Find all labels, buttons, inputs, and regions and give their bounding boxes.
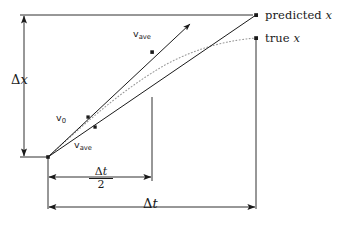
predicted-x-point-marker [254, 13, 258, 17]
v-average-upper-label-subscript: ave [139, 33, 151, 41]
midpoint-point-marker [150, 50, 154, 54]
predicted-x-label-text: predicted [265, 8, 326, 22]
v-ave-upper-vector-line [48, 24, 190, 157]
delta-t-half-numerator-variable: t [103, 165, 107, 178]
v0-point-marker [86, 115, 89, 118]
delta-t-half-label: Δt 2 [89, 166, 113, 191]
diagram-canvas: predicted x true x Δx Δt Δt 2 v0 vave va… [0, 0, 345, 228]
predicted-x-label: predicted x [265, 8, 332, 22]
delta-t-half-numerator-symbol: Δ [95, 165, 103, 178]
v-average-upper-label: vave [133, 28, 151, 39]
delta-t-half-denominator: 2 [89, 179, 113, 190]
predicted-x-label-variable: x [326, 8, 333, 22]
delta-x-label-variable: x [20, 72, 27, 87]
delta-x-label: Δx [11, 72, 28, 87]
v-ave-point-marker [93, 125, 96, 128]
v-average-lower-label-base: v [74, 139, 80, 150]
v-initial-label-subscript: 0 [62, 117, 66, 125]
v-initial-label: v0 [56, 112, 66, 123]
delta-x-label-symbol: Δ [11, 72, 20, 87]
v-average-upper-label-base: v [133, 28, 139, 39]
true-x-point-marker [254, 36, 258, 40]
true-x-label: true x [265, 31, 300, 45]
origin-point-marker [46, 155, 50, 159]
v-average-lower-label-subscript: ave [80, 144, 92, 152]
delta-t-label-variable: t [152, 196, 157, 211]
delta-t-label-symbol: Δ [143, 196, 152, 211]
v-initial-label-base: v [56, 112, 62, 123]
delta-t-label: Δt [143, 196, 158, 211]
true-x-label-text: true [265, 31, 294, 45]
v-average-lower-label: vave [74, 139, 92, 150]
delta-t-half-numerator: Δt [89, 166, 113, 177]
true-x-label-variable: x [294, 31, 301, 45]
